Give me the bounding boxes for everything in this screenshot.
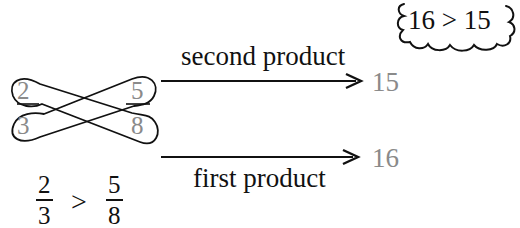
cross-left-denominator: 3	[17, 113, 30, 138]
cross-right-denominator: 8	[131, 113, 144, 138]
conclusion-left-fraction-bar	[36, 199, 53, 201]
arrow-first-product	[161, 150, 358, 164]
first-product-result: 16	[372, 145, 399, 172]
conclusion-right-fraction-bar	[106, 199, 123, 201]
conclusion-left-denominator: 3	[36, 203, 53, 228]
conclusion-left-numerator: 2	[36, 172, 53, 197]
first-product-label: first product	[193, 165, 326, 192]
conclusion-operator: >	[71, 188, 87, 216]
arrow-second-product	[161, 74, 361, 88]
second-product-result: 15	[372, 69, 399, 96]
conclusion-right-numerator: 5	[106, 172, 123, 197]
second-product-label: second product	[181, 43, 345, 70]
cross-left-numerator: 2	[17, 78, 30, 103]
cross-right-numerator: 5	[131, 78, 144, 103]
conclusion-left-fraction: 2 3	[36, 172, 53, 227]
conclusion-right-denominator: 8	[106, 203, 123, 228]
conclusion-right-fraction: 5 8	[106, 172, 123, 227]
cloud-comparison-text: 16 > 15	[408, 7, 491, 34]
